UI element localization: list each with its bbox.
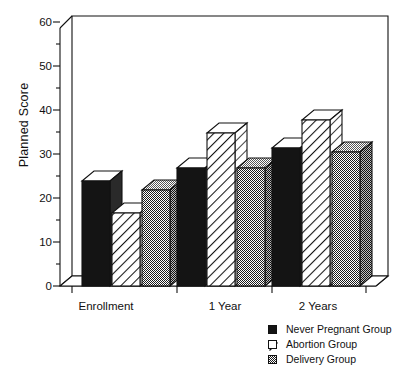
legend-swatch-never-pregnant xyxy=(268,325,277,334)
legend-label-delivery: Delivery Group xyxy=(286,354,356,365)
x-label-1-year: 1 Year xyxy=(175,300,275,312)
legend-item-delivery: Delivery Group xyxy=(268,352,392,367)
legend-swatch-abortion xyxy=(268,340,277,349)
chart-legend: Never Pregnant Group Abortion Group Deli… xyxy=(268,322,392,367)
legend-label-never-pregnant: Never Pregnant Group xyxy=(286,324,392,335)
x-label-2-years: 2 Years xyxy=(268,300,368,312)
x-axis-ticks xyxy=(72,286,366,293)
y-axis-ticks xyxy=(53,22,60,286)
legend-item-never-pregnant: Never Pregnant Group xyxy=(268,322,392,337)
chart-figure: Planned Score 60 50 40 30 20 10 0 xyxy=(0,0,408,387)
legend-swatch-delivery xyxy=(268,355,277,364)
bar-enrollment-delivery xyxy=(142,180,182,286)
x-label-enrollment: Enrollment xyxy=(56,300,156,312)
bar-1year-delivery xyxy=(237,158,277,286)
bar-2years-delivery xyxy=(332,142,372,286)
legend-item-abortion: Abortion Group xyxy=(268,337,392,352)
legend-label-abortion: Abortion Group xyxy=(286,339,357,350)
